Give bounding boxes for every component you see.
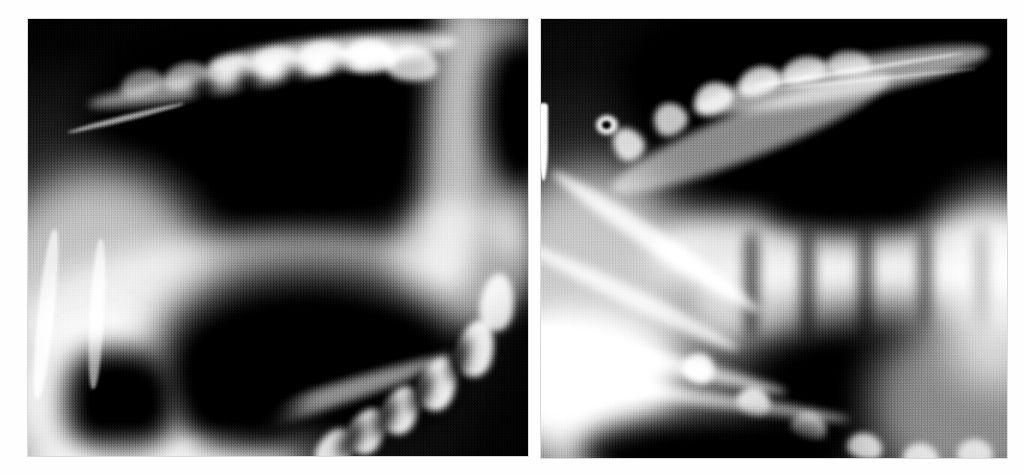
right-radiograph-image: [541, 19, 1007, 458]
left-radiograph-image: [28, 19, 528, 456]
left-radiograph-panel[interactable]: [28, 19, 528, 456]
film-base-right: [541, 19, 1007, 458]
film-base-left: [28, 19, 528, 456]
right-radiograph-panel[interactable]: [541, 19, 1007, 458]
radiograph-figure: [0, 0, 1024, 475]
